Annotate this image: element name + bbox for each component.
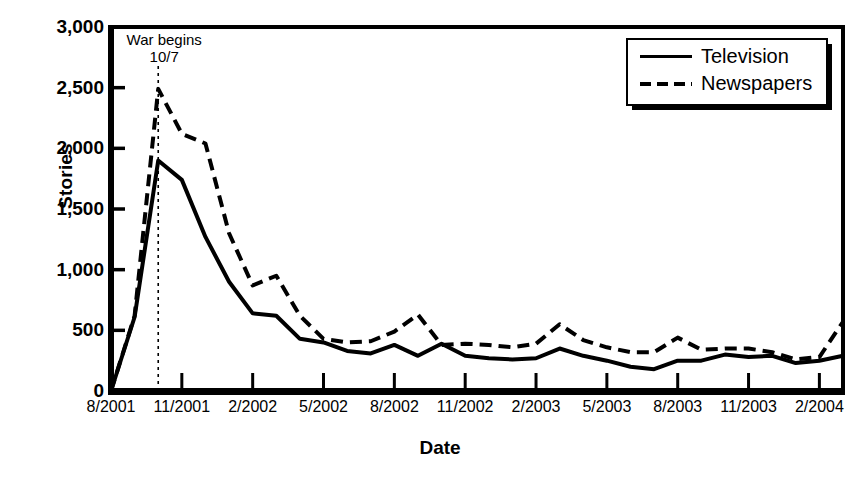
legend-swatch-dashed-icon bbox=[640, 77, 692, 91]
legend-label-television: Television bbox=[701, 45, 789, 68]
legend: Television Newspapers bbox=[626, 38, 828, 106]
series-line-television bbox=[111, 160, 843, 391]
legend-item-newspapers[interactable]: Newspapers bbox=[640, 72, 812, 95]
chart-figure: Stories Date 05001,0001,5002,0002,5003,0… bbox=[0, 0, 859, 478]
series-line-newspapers bbox=[111, 89, 843, 391]
legend-label-newspapers: Newspapers bbox=[701, 72, 812, 95]
legend-item-television[interactable]: Television bbox=[640, 45, 789, 68]
legend-swatch-solid-icon bbox=[640, 50, 692, 64]
